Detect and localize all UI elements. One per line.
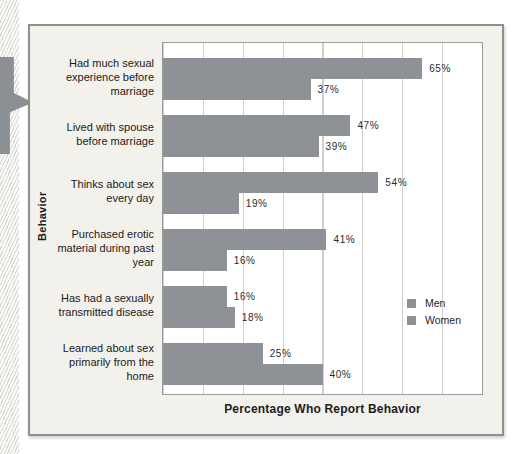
bar-value-label: 16% [234, 291, 256, 302]
bar-men [163, 115, 350, 136]
bar-value-label: 25% [270, 348, 292, 359]
bar-value-label: 37% [318, 84, 340, 95]
bar-value-label: 18% [242, 312, 264, 323]
bar-row: 40% [163, 364, 482, 385]
bar-row: 37% [163, 79, 482, 100]
bar-row: 41% [163, 229, 482, 250]
bar-women [163, 250, 227, 271]
legend-men-swatch-icon [407, 299, 416, 308]
legend-item-men: Men [407, 297, 461, 309]
bar-men [163, 229, 326, 250]
bar-row: 19% [163, 193, 482, 214]
bar-women [163, 193, 239, 214]
bar-men [163, 58, 422, 79]
category-label: Purchased erotic material during past ye… [48, 228, 154, 270]
bar-value-label: 54% [385, 177, 407, 188]
bar-women [163, 364, 323, 385]
chart-panel: Behavior 65%37%47%39%54%19%41%16%16%18%2… [28, 24, 504, 436]
legend-label: Women [425, 314, 461, 326]
plot-area: 65%37%47%39%54%19%41%16%16%18%25%40%MenW… [162, 42, 483, 395]
bar-row: 65% [163, 58, 482, 79]
x-axis-title: Percentage Who Report Behavior [162, 402, 483, 416]
bar-men [163, 343, 263, 364]
bar-value-label: 41% [333, 234, 355, 245]
bar-value-label: 40% [330, 369, 352, 380]
bar-men [163, 172, 378, 193]
category-label: Thinks about sex every day [48, 171, 154, 213]
legend: MenWomen [407, 297, 461, 326]
bar-row: 47% [163, 115, 482, 136]
bar-women [163, 79, 311, 100]
bar-row: 25% [163, 343, 482, 364]
bar-row: 54% [163, 172, 482, 193]
bar-value-label: 65% [429, 63, 451, 74]
bar-value-label: 19% [246, 198, 268, 209]
bar-men [163, 286, 227, 307]
bar-women [163, 307, 235, 328]
category-label: Had much sexual experience before marria… [48, 57, 154, 99]
bar-row: 16% [163, 250, 482, 271]
legend-item-women: Women [407, 314, 461, 326]
legend-label: Men [425, 297, 445, 309]
category-label: Lived with spouse before marriage [48, 114, 154, 156]
bar-women [163, 136, 319, 157]
bar-row: 39% [163, 136, 482, 157]
legend-women-swatch-icon [407, 316, 416, 325]
category-label: Has had a sexually transmitted disease [48, 285, 154, 327]
y-axis-title: Behavior [34, 136, 50, 296]
bar-value-label: 39% [326, 141, 348, 152]
bar-value-label: 16% [234, 255, 256, 266]
bar-value-label: 47% [357, 120, 379, 131]
category-label: Learned about sex primarily from the hom… [48, 342, 154, 384]
